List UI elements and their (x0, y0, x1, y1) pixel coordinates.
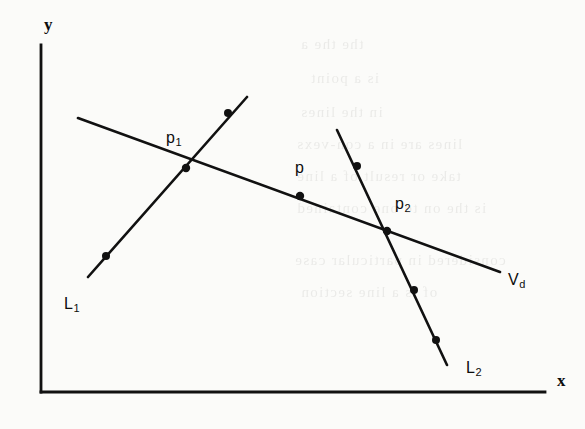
line-label-vd: Vd (508, 272, 525, 288)
axes-group (41, 45, 545, 392)
point-p1 (182, 164, 190, 172)
line-label-subscript: 1 (73, 302, 79, 314)
line-label-subscript: 2 (475, 366, 481, 378)
line-label-l2: L2 (466, 360, 481, 376)
figure-root: the the ais a pointin the lineslines are… (0, 0, 585, 429)
point-label-p: p (295, 160, 304, 176)
point-label-p1: p1 (166, 130, 181, 146)
point-p (296, 192, 304, 200)
point-label-subscript: 2 (404, 202, 410, 214)
line-label-l1: L1 (64, 296, 79, 312)
point-label-subscript: 1 (175, 136, 181, 148)
y-axis-label: y (44, 16, 53, 33)
line-label-subscript: d (519, 278, 525, 290)
line-vd (78, 118, 500, 272)
line-label-text: V (508, 271, 519, 288)
x-axis-label: x (557, 372, 566, 389)
point-label-p2: p2 (395, 196, 410, 212)
marker-l2-m3 (432, 336, 440, 344)
diagram-canvas (0, 0, 585, 429)
marker-l2-m1 (353, 162, 361, 170)
line-label-text: L (466, 359, 475, 376)
point-p2 (383, 227, 391, 235)
marker-l1-m1 (102, 252, 110, 260)
point-label-text: p (166, 129, 175, 146)
marker-l2-m2 (410, 286, 418, 294)
marker-l1-m2 (224, 109, 232, 117)
point-label-text: p (395, 195, 404, 212)
line-l1 (88, 97, 247, 277)
lines-group (78, 97, 500, 365)
point-label-text: p (295, 159, 304, 176)
line-label-text: L (64, 295, 73, 312)
